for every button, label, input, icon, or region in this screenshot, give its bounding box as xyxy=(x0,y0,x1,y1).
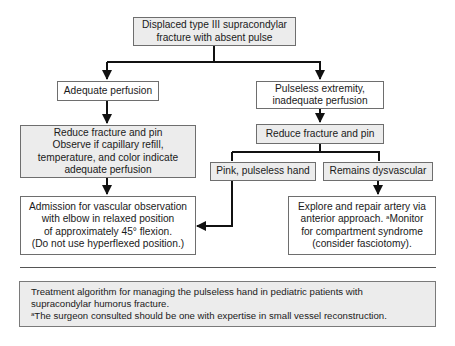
explore-line-4: (consider fasciotomy). xyxy=(312,238,412,250)
remains-dysvascular-label: Remains dysvascular xyxy=(330,165,427,177)
admission-observation-node: Admission for vascular observation with … xyxy=(20,196,196,255)
reduce-and-observe-line-1: Reduce fracture and pin xyxy=(54,127,163,139)
pulseless-extremity-node: Pulseless extremity, inadequate perfusio… xyxy=(256,81,384,109)
adequate-perfusion-label: Adequate perfusion xyxy=(64,85,152,97)
explore-line-1: Explore and repair artery via xyxy=(298,201,426,213)
reduce-and-observe-line-4: adequate perfusion xyxy=(64,164,151,176)
caption-line-3: aThe surgeon consulted should be one wit… xyxy=(31,310,435,322)
reduce-and-observe-line-3: temperature, and color indicate xyxy=(38,152,178,164)
root-node: Displaced type III supracondylar fractur… xyxy=(133,17,296,46)
caption-line-2: supracondylar humorus fracture. xyxy=(31,298,435,310)
pulseless-extremity-line-2: inadequate perfusion xyxy=(272,95,367,107)
caption-line-3-text: The surgeon consulted should be one with… xyxy=(34,310,387,321)
explore-line-3: for compartment syndrome xyxy=(301,226,423,238)
pink-pulseless-hand-label: Pink, pulseless hand xyxy=(216,165,309,177)
pink-pulseless-hand-node: Pink, pulseless hand xyxy=(210,162,316,181)
remains-dysvascular-node: Remains dysvascular xyxy=(323,162,433,181)
explore-line-2a: anterior approach. xyxy=(301,213,384,224)
divider-line xyxy=(20,267,436,268)
figure-caption: Treatment algorithm for managing the pul… xyxy=(19,281,436,327)
reduce-fracture-node: Reduce fracture and pin xyxy=(256,124,384,144)
root-node-line-2: fracture with absent pulse xyxy=(156,32,272,44)
admission-line-1: Admission for vascular observation xyxy=(29,201,187,213)
reduce-fracture-label: Reduce fracture and pin xyxy=(266,128,375,140)
adequate-perfusion-node: Adequate perfusion xyxy=(57,81,159,101)
pulseless-extremity-line-1: Pulseless extremity, xyxy=(275,83,365,95)
caption-line-1: Treatment algorithm for managing the pul… xyxy=(31,286,435,298)
explore-repair-node: Explore and repair artery via anterior a… xyxy=(288,196,436,255)
root-node-line-1: Displaced type III supracondylar xyxy=(142,19,287,31)
reduce-and-observe-line-2: Observe if capillary refill, xyxy=(53,139,164,151)
admission-line-3: of approximately 45° flexion. xyxy=(44,226,172,238)
reduce-and-observe-node: Reduce fracture and pin Observe if capil… xyxy=(20,125,196,178)
admission-line-2: with elbow in relaxed position xyxy=(42,213,175,225)
admission-line-4: (Do not use hyperflexed position.) xyxy=(32,238,184,250)
explore-line-2: anterior approach. aMonitor xyxy=(301,213,424,225)
explore-line-2b: Monitor xyxy=(389,213,423,224)
